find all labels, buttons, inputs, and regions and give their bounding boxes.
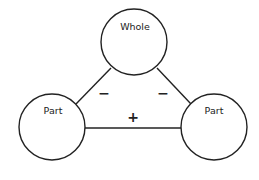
part-right-label: Part (205, 105, 224, 116)
whole-label: Whole (120, 21, 150, 32)
part-left-node (19, 94, 85, 160)
part-right-node (181, 94, 247, 160)
part-whole-diagram: Whole Part Part − − + (0, 0, 259, 180)
whole-node (101, 9, 167, 75)
plus-operator: + (127, 109, 139, 125)
minus-operator-right: − (157, 85, 169, 101)
part-left-label: Part (44, 105, 63, 116)
minus-operator-left: − (98, 85, 110, 101)
